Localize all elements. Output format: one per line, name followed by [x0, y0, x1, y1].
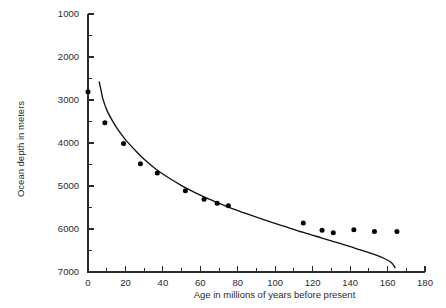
- data-point: [138, 161, 143, 166]
- y-tick-label: 1000: [58, 8, 79, 19]
- data-point: [226, 203, 231, 208]
- x-tick-label: 20: [120, 277, 131, 288]
- x-tick-label: 80: [232, 277, 243, 288]
- y-axis-title: Ocean depth in meters: [15, 101, 26, 197]
- x-tick-label: 40: [158, 277, 169, 288]
- x-tick-label: 180: [417, 277, 433, 288]
- data-point: [202, 197, 207, 202]
- data-point: [301, 220, 306, 225]
- x-tick-label: 120: [305, 277, 321, 288]
- y-tick-label: 3000: [58, 94, 79, 105]
- data-point: [372, 229, 377, 234]
- data-point: [215, 201, 220, 206]
- y-tick-label: 2000: [58, 51, 79, 62]
- x-tick-label: 0: [85, 277, 90, 288]
- ocean-depth-vs-age-chart: 1000200030004000500060007000020406080100…: [0, 0, 446, 308]
- x-tick-label: 160: [380, 277, 396, 288]
- chart-canvas: 1000200030004000500060007000020406080100…: [0, 0, 446, 308]
- y-tick-label: 6000: [58, 223, 79, 234]
- x-axis-title: Age in millions of years before present: [194, 289, 356, 300]
- y-tick-label: 7000: [58, 266, 79, 277]
- data-point: [183, 188, 188, 193]
- data-point: [86, 89, 91, 94]
- x-tick-label: 60: [195, 277, 206, 288]
- data-point: [320, 228, 325, 233]
- y-tick-label: 4000: [58, 137, 79, 148]
- data-point: [155, 171, 160, 176]
- data-point: [121, 141, 126, 146]
- y-tick-label: 5000: [58, 180, 79, 191]
- data-point: [351, 227, 356, 232]
- theoretical-subsidence-curve: [99, 82, 395, 268]
- x-tick-label: 140: [342, 277, 358, 288]
- data-point: [102, 120, 107, 125]
- data-point: [331, 230, 336, 235]
- data-point: [394, 229, 399, 234]
- x-tick-label: 100: [267, 277, 283, 288]
